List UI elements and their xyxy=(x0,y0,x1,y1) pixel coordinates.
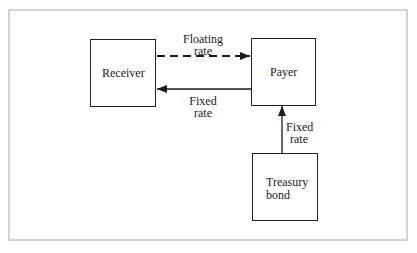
fixed-rate-label-right-line2: rate xyxy=(286,133,312,145)
fixed-rate-label-bottom-line2: rate xyxy=(186,107,220,119)
fixed-rate-label-right: Fixed rate xyxy=(286,121,312,145)
floating-rate-label: Floating rate xyxy=(182,33,224,57)
floating-rate-label-line2: rate xyxy=(182,45,224,57)
fixed-rate-label-bottom: Fixed rate xyxy=(186,95,220,119)
